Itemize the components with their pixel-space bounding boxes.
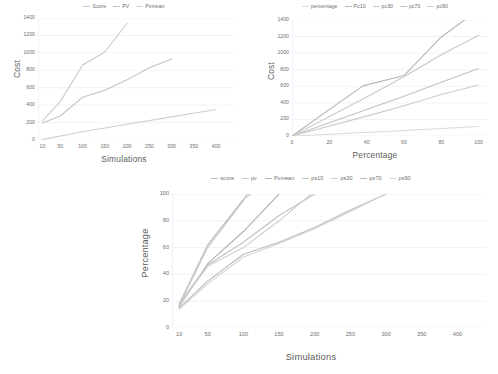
legend-label: score: [220, 176, 234, 181]
legend-swatch-icon: [83, 6, 90, 7]
x-tick-label: 100: [73, 144, 93, 149]
legend-item[interactable]: ps70: [360, 176, 381, 181]
plot-canvas: [172, 194, 486, 328]
series-line: [292, 35, 479, 136]
cost-vs-percentage-chart: percentagePc10pc30pc70pc90 Cost Percenta…: [256, 4, 494, 170]
series-line: [292, 20, 466, 136]
x-tick-label: 250: [340, 332, 360, 338]
series-line: [42, 59, 171, 123]
legend-item[interactable]: ps10: [302, 176, 323, 181]
legend-swatch-icon: [242, 178, 249, 179]
percentage-vs-simulations-chart: scorepvPvmeanps10ps30ps70ps90 Percentage…: [128, 176, 494, 372]
series-line: [179, 194, 315, 304]
x-tick-label: 200: [117, 144, 137, 149]
chart-1-x-axis-label: Simulations: [6, 154, 242, 164]
legend-label: PV: [122, 4, 129, 9]
y-tick-label: 0: [9, 137, 35, 142]
legend-item[interactable]: score: [211, 176, 234, 181]
series-line: [179, 194, 386, 309]
plot-canvas: [292, 20, 488, 136]
plot-canvas: [38, 18, 234, 140]
cost-vs-simulations-chart: ScorePVPvmean Cost Simulations 020040060…: [6, 4, 242, 172]
legend-swatch-icon: [113, 6, 120, 7]
y-tick-label: 1400: [263, 17, 289, 22]
y-tick-label: 800: [9, 67, 35, 72]
legend-label: percentage: [311, 4, 338, 9]
chart-1-plot-area: 0200400600800100012001400105010015020025…: [38, 18, 234, 140]
legend-label: pc90: [436, 4, 447, 9]
legend-item[interactable]: pc70: [400, 4, 420, 9]
legend-label: Pc10: [354, 4, 366, 9]
x-tick-label: 300: [376, 332, 396, 338]
x-tick-label: 250: [139, 144, 159, 149]
y-tick-label: 400: [263, 100, 289, 105]
legend-item[interactable]: Pvmean: [136, 4, 164, 9]
y-tick-label: 1000: [263, 50, 289, 55]
y-tick-label: 600: [9, 85, 35, 90]
legend-swatch-icon: [265, 178, 272, 179]
series-line: [42, 110, 216, 140]
legend-item[interactable]: ps90: [390, 176, 411, 181]
legend-item[interactable]: pc90: [427, 4, 447, 9]
x-tick-label: 0: [282, 140, 302, 145]
y-tick-label: 1200: [9, 32, 35, 37]
legend-item[interactable]: Pc10: [345, 4, 366, 9]
legend-item[interactable]: Pvmean: [265, 176, 294, 181]
legend-swatch-icon: [211, 178, 218, 179]
x-tick-label: 100: [469, 140, 489, 145]
legend-swatch-icon: [427, 6, 434, 7]
x-tick-label: 150: [95, 144, 115, 149]
legend-item[interactable]: percentage: [302, 4, 338, 9]
series-line: [42, 23, 127, 121]
legend-swatch-icon: [136, 6, 143, 7]
chart-3-y-axis-label: Percentage: [140, 218, 150, 288]
y-tick-label: 0: [143, 325, 169, 331]
x-tick-label: 350: [184, 144, 204, 149]
y-tick-label: 600: [263, 83, 289, 88]
x-tick-label: 150: [269, 332, 289, 338]
series-line: [179, 194, 279, 307]
legend-item[interactable]: Score: [83, 4, 106, 9]
legend-swatch-icon: [331, 178, 338, 179]
legend-label: ps10: [311, 176, 323, 181]
legend-label: ps90: [399, 176, 411, 181]
y-tick-label: 200: [9, 120, 35, 125]
x-tick-label: 10: [169, 332, 189, 338]
x-tick-label: 20: [319, 140, 339, 145]
y-tick-label: 800: [263, 67, 289, 72]
x-tick-label: 80: [431, 140, 451, 145]
series-line: [292, 126, 479, 136]
legend-swatch-icon: [360, 178, 367, 179]
y-tick-label: 400: [9, 102, 35, 107]
series-line: [292, 68, 479, 136]
legend-swatch-icon: [373, 6, 380, 7]
chart-2-plot: [292, 20, 488, 136]
legend-swatch-icon: [345, 6, 352, 7]
series-line: [179, 194, 247, 305]
chart-3-legend: scorepvPvmeanps10ps30ps70ps90: [128, 176, 494, 181]
series-line: [179, 194, 386, 308]
chart-2-legend: percentagePc10pc30pc70pc90: [256, 4, 494, 9]
legend-item[interactable]: PV: [113, 4, 129, 9]
chart-1-plot: [38, 18, 234, 140]
x-tick-label: 50: [50, 144, 70, 149]
legend-item[interactable]: ps30: [331, 176, 352, 181]
x-tick-label: 300: [162, 144, 182, 149]
legend-label: ps70: [369, 176, 381, 181]
series-line: [179, 194, 311, 305]
x-tick-label: 40: [357, 140, 377, 145]
x-tick-label: 400: [447, 332, 467, 338]
legend-swatch-icon: [390, 178, 397, 179]
legend-item[interactable]: pc30: [373, 4, 393, 9]
legend-item[interactable]: pv: [242, 176, 257, 181]
legend-label: pc30: [382, 4, 393, 9]
chart-1-legend: ScorePVPvmean: [6, 4, 242, 9]
y-tick-label: 200: [263, 116, 289, 121]
legend-swatch-icon: [302, 178, 309, 179]
y-tick-label: 40: [143, 271, 169, 277]
legend-label: Pvmean: [145, 4, 164, 9]
x-tick-label: 100: [233, 332, 253, 338]
legend-label: Pvmean: [274, 176, 294, 181]
legend-swatch-icon: [400, 6, 407, 7]
chart-2-x-axis-label: Percentage: [256, 150, 494, 160]
